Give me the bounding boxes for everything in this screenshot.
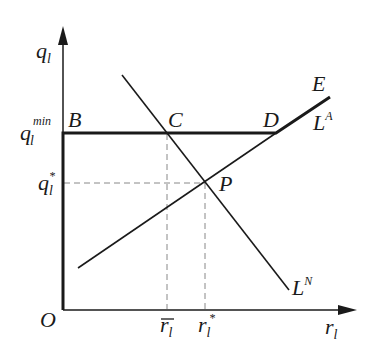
y-axis-arrow-icon [58, 26, 68, 45]
diagram-canvas: ql ql min ql * O rl rl * rl B C D E P LA… [0, 0, 370, 356]
dashed-guides [64, 134, 205, 309]
origin-label: O [40, 307, 56, 332]
curve-LA [78, 133, 276, 268]
point-C-label: C [168, 107, 183, 132]
axes [58, 26, 357, 315]
curve-LA-label: LA [312, 109, 333, 135]
tick-r-bar: rl [160, 312, 173, 340]
y-axis-label: ql [36, 38, 51, 66]
kinked-line-OBDE [63, 97, 330, 310]
tick-r-star-sup: * [209, 311, 215, 325]
point-P-label: P [218, 171, 232, 196]
point-E-label: E [311, 71, 326, 96]
diagram-svg: ql ql min ql * O rl rl * rl B C D E P LA… [0, 0, 370, 356]
tick-q-min-sup: min [33, 114, 51, 128]
curve-LN-label: LN [291, 274, 313, 300]
point-B-label: B [68, 107, 81, 132]
kinked-curve [63, 97, 330, 310]
x-axis-label: rl [325, 314, 338, 342]
point-D-label: D [262, 107, 279, 132]
tick-q-star-sup: * [49, 169, 55, 183]
x-axis-arrow-icon [338, 305, 357, 315]
tick-q-min: ql [20, 120, 34, 148]
